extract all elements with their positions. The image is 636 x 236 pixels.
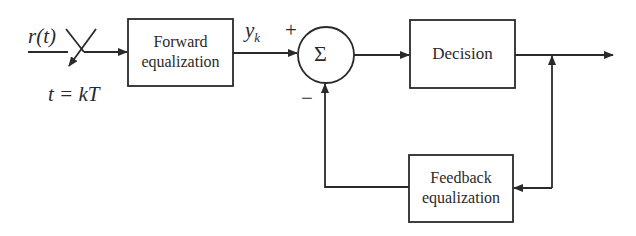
forward-output-label: yk [245,18,260,46]
k-subscript: k [254,30,260,45]
summer-minus-sign: − [301,86,313,111]
summer-plus-sign: + [285,18,297,43]
diagram-canvas [0,0,636,236]
forward-label-line1: Forward [128,32,233,52]
decision-block-label: Decision [410,44,515,64]
y-symbol: y [245,18,254,42]
feedback-label-line2: equalization [409,188,513,208]
forward-block-label: Forward equalization [128,32,233,72]
arrow-feedback-to-summer [325,84,409,187]
input-signal-label: r(t) [28,24,56,49]
feedback-label-line1: Feedback [409,168,513,188]
summer-sigma-symbol: Σ [314,41,327,67]
sampling-time-label: t = kT [48,82,100,107]
forward-label-line2: equalization [128,52,233,72]
feedback-block-label: Feedback equalization [409,168,513,208]
sampler-switch-rotation-arrow [69,29,96,66]
